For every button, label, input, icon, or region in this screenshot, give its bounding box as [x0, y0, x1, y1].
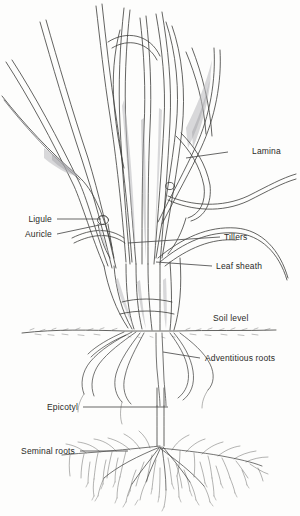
label-tillers: Tillers — [224, 233, 247, 242]
epicotyl — [157, 388, 164, 446]
label-seminal-roots: Seminal roots — [21, 447, 75, 456]
seminal-root-system — [62, 431, 268, 511]
label-lamina: Lamina — [252, 147, 281, 156]
label-epicotyl: Epicotyl — [47, 403, 78, 412]
label-soil-level: Soil level — [213, 314, 249, 323]
label-adventitious-roots: Adventitious roots — [205, 354, 275, 363]
label-ligule: Ligule — [28, 215, 52, 224]
grass-plant-diagram: .ln { fill:none; stroke:#3c3c3a; stroke-… — [0, 0, 300, 516]
label-auricle: Auricle — [25, 230, 52, 239]
adventitious-roots — [78, 332, 213, 424]
ligule-auricle-node — [98, 182, 175, 260]
label-leaf-sheath: Leaf sheath — [216, 262, 262, 271]
plant-illustration: .ln { fill:none; stroke:#3c3c3a; stroke-… — [0, 0, 300, 516]
tiller-bases-and-crown — [104, 258, 181, 330]
soil-line — [22, 328, 276, 338]
